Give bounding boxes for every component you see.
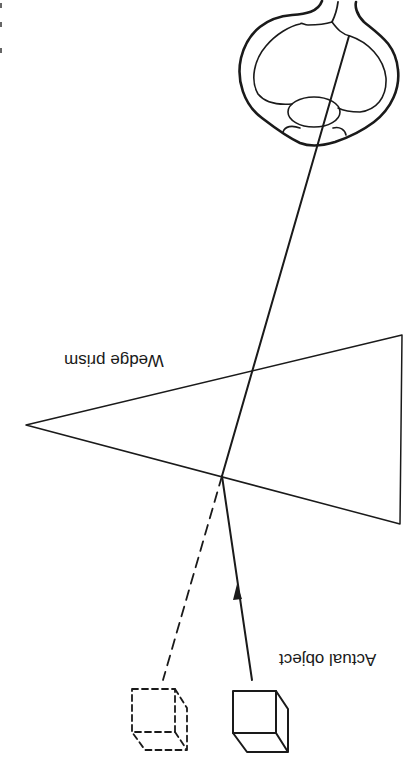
apparent-object-cube <box>132 689 187 750</box>
eye-outer-wall <box>240 1 399 146</box>
eye-lens <box>288 97 340 127</box>
apparent-direction-ray <box>163 476 222 680</box>
eye-inner-chamber <box>254 22 386 112</box>
optic-nerve <box>332 2 338 22</box>
light-ray-to-eye <box>222 36 349 476</box>
page-edge-mark <box>0 3 2 8</box>
light-ray-from-object <box>222 476 252 680</box>
actual-object-cube <box>233 691 288 752</box>
page-edge-mark <box>0 48 2 53</box>
page-edge-mark <box>0 22 2 27</box>
arrow-up-icon <box>233 584 242 600</box>
actual-object-label: Actual object <box>279 651 376 668</box>
eye-icon <box>240 1 399 146</box>
wedge-prism-label: Wedge prism <box>64 352 164 369</box>
